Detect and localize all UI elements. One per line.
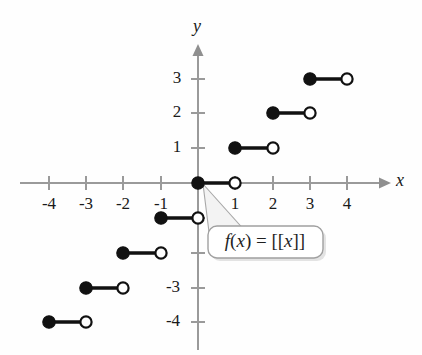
callout-formula-text: f(x) = [[x]] bbox=[225, 230, 305, 252]
formula-bracket-close: ]] bbox=[293, 230, 306, 251]
open-dot-4 bbox=[341, 73, 352, 84]
formula-callout[interactable]: f(x) = [[x]] bbox=[208, 226, 326, 261]
closed-dot--4 bbox=[43, 316, 55, 328]
x-tick-label--3: -3 bbox=[79, 194, 93, 213]
closed-dot--1 bbox=[155, 212, 167, 224]
x-tick-labels: -4 -3 -2 -1 1 2 3 4 bbox=[42, 194, 352, 213]
closed-dot-3 bbox=[304, 73, 316, 85]
y-tick-label-3: 3 bbox=[173, 68, 182, 87]
x-axis-arrow-icon bbox=[379, 178, 391, 189]
y-tick-label--4: -4 bbox=[166, 311, 181, 330]
x-tick-label-3: 3 bbox=[306, 194, 315, 213]
open-dot-1 bbox=[229, 177, 240, 188]
x-tick-label--1: -1 bbox=[154, 194, 168, 213]
y-tick-label--3: -3 bbox=[166, 277, 180, 296]
x-tick-label--2: -2 bbox=[116, 194, 130, 213]
open-dot-3 bbox=[304, 107, 315, 118]
figure-container: x y -4 -3 -2 -1 1 2 3 4 bbox=[0, 0, 422, 355]
open-dot--2 bbox=[117, 282, 128, 293]
formula-equals: = bbox=[256, 230, 267, 251]
closed-dot--2 bbox=[117, 247, 129, 259]
x-tick-label-1: 1 bbox=[231, 194, 240, 213]
x-tick-label-2: 2 bbox=[269, 194, 278, 213]
callout-tail-shape bbox=[203, 184, 246, 232]
callout-pointer bbox=[203, 184, 246, 232]
y-tick-labels: 3 2 1 -3 -4 bbox=[166, 68, 181, 330]
x-tick-label-4: 4 bbox=[343, 194, 352, 213]
formula-bracket-open: [[ bbox=[271, 230, 284, 251]
closed-dot-0 bbox=[192, 177, 204, 189]
y-tick-label-2: 2 bbox=[173, 102, 182, 121]
open-dot-0 bbox=[192, 212, 203, 223]
y-tick-label-1: 1 bbox=[173, 137, 182, 156]
closed-dot-2 bbox=[267, 107, 279, 119]
step-function-plot: x y -4 -3 -2 -1 1 2 3 4 bbox=[0, 0, 422, 355]
x-tick-label--4: -4 bbox=[42, 194, 57, 213]
open-dot--1 bbox=[155, 247, 166, 258]
y-axis-label: y bbox=[191, 16, 201, 36]
closed-dot--3 bbox=[80, 282, 92, 294]
x-axis-label: x bbox=[395, 170, 404, 190]
open-dot-2 bbox=[267, 142, 278, 153]
closed-dot-1 bbox=[229, 142, 241, 154]
open-dot--3 bbox=[80, 316, 91, 327]
y-axis-arrow-icon bbox=[193, 44, 204, 56]
